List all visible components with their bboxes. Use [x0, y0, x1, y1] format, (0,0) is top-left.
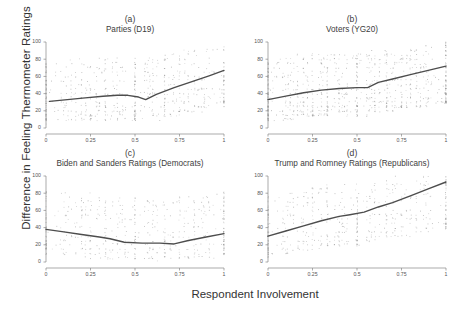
panel-b-plot-area-ytick: 100 [249, 39, 263, 44]
panel-b-letter: (b) [252, 14, 452, 24]
panel-c-plot-area-ytick: 20 [27, 242, 41, 247]
panel-c-letter: (c) [30, 148, 230, 158]
panel-b-plot-area-fit-line [268, 66, 446, 100]
panel-c-plot-area-ytick: 100 [27, 173, 41, 178]
panel-a-plot-area-ytick: 100 [27, 39, 41, 44]
panel-b-plot-area-xtick: 0.25 [303, 138, 323, 143]
panel-d-plot-area: 02040608010000.250.50.751 [268, 176, 446, 262]
panel-b: (b) Voters (YG20) 02040608010000.250.50.… [252, 8, 452, 140]
panel-b-plot-area-ytick: 40 [249, 91, 263, 96]
panel-d: (d) Trump and Romney Ratings (Republican… [252, 146, 452, 284]
panel-b-plot-area-xtick: 1 [436, 138, 456, 143]
panel-d-plot-area-xtick: 0.25 [303, 272, 323, 277]
panel-d-plot-area-scatter-points [268, 176, 447, 258]
panel-d-plot-area-xtick: 0 [258, 272, 278, 277]
panel-c-plot-area-ytick: 40 [27, 225, 41, 230]
panel-b-plot-area-ytick: 20 [249, 108, 263, 113]
panel-c-plot-area-xtick: 0.5 [125, 272, 145, 277]
panel-c-plot-area-ytick: 80 [27, 191, 41, 196]
panel-d-plot-area-ytick: 20 [249, 242, 263, 247]
panel-a-plot-area-ytick: 60 [27, 74, 41, 79]
panel-c-plot-area-xtick: 0.75 [170, 272, 190, 277]
panel-b-plot-area-svg [268, 42, 446, 140]
panel-c-plot-area-xtick: 0.25 [81, 272, 101, 277]
panel-b-title: Voters (YG20) [252, 25, 452, 34]
panel-c-plot-area: 02040608010000.250.50.751 [46, 176, 224, 262]
figure-panel-grid: Difference in Feeling Thermometer Rating… [0, 0, 464, 309]
panel-d-plot-area-xtick: 0.75 [392, 272, 412, 277]
panel-c-plot-area-xtick: 1 [214, 272, 234, 277]
panel-c-title: Biden and Sanders Ratings (Democrats) [30, 159, 230, 168]
panel-c-plot-area-ytick: 0 [27, 259, 41, 264]
panel-a: (a) Parties (D19) 02040608010000.250.50.… [30, 8, 230, 140]
panel-a-letter: (a) [30, 14, 230, 24]
panel-a-plot-area-xtick: 0.25 [81, 138, 101, 143]
figure-x-axis-label: Respondent Involvement [0, 288, 464, 300]
panel-c-plot-area-ytick: 60 [27, 208, 41, 213]
panel-c-plot-area-scatter-points [46, 192, 225, 262]
panel-b-plot-area-scatter-points [268, 42, 447, 121]
panel-d-letter: (d) [252, 148, 452, 158]
panel-d-plot-area-ytick: 60 [249, 208, 263, 213]
panel-b-plot-area-xtick: 0.5 [347, 138, 367, 143]
panel-d-title: Trump and Romney Ratings (Republicans) [252, 159, 452, 168]
panel-a-plot-area-xtick: 1 [214, 138, 234, 143]
panel-d-plot-area-svg [268, 176, 446, 274]
panel-b-plot-area-ytick: 80 [249, 57, 263, 62]
panel-c: (c) Biden and Sanders Ratings (Democrats… [30, 146, 230, 284]
panel-b-plot-area-ytick: 60 [249, 74, 263, 79]
panel-a-plot-area-scatter-points [46, 46, 225, 124]
panel-b-plot-area-xtick: 0.75 [392, 138, 412, 143]
panel-a-plot-area-svg [46, 42, 224, 140]
panel-d-plot-area-xtick: 0.5 [347, 272, 367, 277]
panel-d-plot-area-ytick: 40 [249, 225, 263, 230]
panel-a-plot-area-xtick: 0.5 [125, 138, 145, 143]
panel-c-plot-area-svg [46, 176, 224, 274]
panel-d-plot-area-xtick: 1 [436, 272, 456, 277]
panel-a-plot-area-xtick: 0 [36, 138, 56, 143]
panel-b-plot-area-ytick: 0 [249, 125, 263, 130]
panel-d-plot-area-ytick: 100 [249, 173, 263, 178]
panel-c-plot-area-xtick: 0 [36, 272, 56, 277]
panel-a-plot-area-ytick: 20 [27, 108, 41, 113]
panel-a-plot-area-ytick: 40 [27, 91, 41, 96]
panel-b-plot-area: 02040608010000.250.50.751 [268, 42, 446, 128]
panel-d-plot-area-fit-line [268, 182, 446, 236]
panel-a-plot-area-xtick: 0.75 [170, 138, 190, 143]
panel-d-plot-area-ytick: 80 [249, 191, 263, 196]
panel-a-title: Parties (D19) [30, 25, 230, 34]
panel-a-plot-area-ytick: 80 [27, 57, 41, 62]
panel-a-plot-area-ytick: 0 [27, 125, 41, 130]
panel-d-plot-area-ytick: 0 [249, 259, 263, 264]
panel-a-plot-area-fit-line [50, 70, 224, 101]
panel-a-plot-area: 02040608010000.250.50.751 [46, 42, 224, 128]
panel-b-plot-area-xtick: 0 [258, 138, 278, 143]
